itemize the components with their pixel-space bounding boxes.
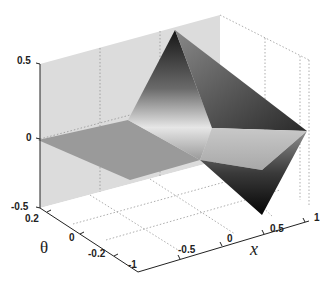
x-tick-minus-1: -1 (128, 259, 137, 270)
theta-tick-minus-0.2: -0.2 (88, 248, 106, 259)
x-tick-minus-0.5: -0.5 (178, 244, 196, 255)
theta-tick-0.2: 0.2 (25, 213, 39, 224)
x-tick-0.5: 0.5 (270, 223, 284, 234)
x-tick-0: 0 (227, 233, 233, 244)
x-axis-label: x (249, 239, 258, 259)
theta-axis-label: θ (40, 238, 48, 257)
theta-tick-0: 0 (69, 232, 75, 243)
z-tick-0.5: 0.5 (17, 55, 31, 66)
z-tick-minus-0.5: -0.5 (11, 201, 29, 212)
surface-plot: 0.5 0 -0.5 0.2 0 -0.2 -1 -0.5 0 0.5 1 θ … (0, 0, 331, 281)
x-tick-1: 1 (314, 212, 320, 223)
z-tick-0: 0 (26, 132, 32, 143)
